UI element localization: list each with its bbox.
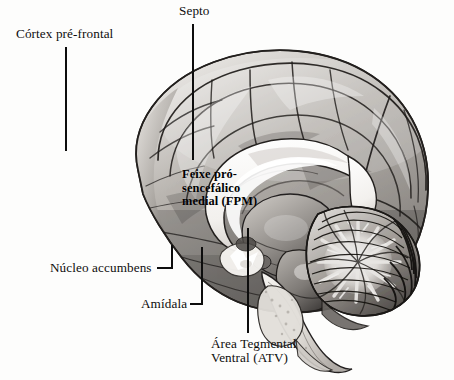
label-nucleo-accumbens: Núcleo accumbens	[50, 261, 152, 275]
label-feixe-prosencefalico-medial: Feixe pró- sencefálico medial (FPM)	[182, 168, 257, 209]
label-cortex-pre-frontal: Córtex pré-frontal	[16, 27, 113, 41]
brain-anatomy-figure: Córtex pré-frontal Septo Feixe pró- senc…	[0, 0, 454, 380]
label-amidala: Amídala	[141, 297, 187, 311]
label-septo: Septo	[179, 4, 210, 18]
label-area-tegmental-ventral: Área Tegmental Ventral (ATV)	[211, 337, 297, 366]
